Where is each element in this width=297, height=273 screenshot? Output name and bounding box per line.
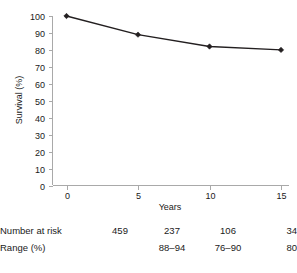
y-tick-label: 50 <box>35 97 45 107</box>
y-tick-group: 0102030405060708090100 <box>30 12 53 192</box>
data-point-marker <box>207 44 212 49</box>
x-tick-label: 15 <box>276 191 286 201</box>
data-point-marker <box>135 32 140 37</box>
risk-cell <box>96 239 144 256</box>
x-tick-group: 051015 <box>65 186 287 202</box>
risk-cell: 34 <box>256 222 297 239</box>
data-point-marker <box>64 13 69 18</box>
risk-row-label: Range (%) <box>0 239 96 256</box>
risk-cell: 76–90 <box>200 239 256 256</box>
y-tick-label: 20 <box>35 148 45 158</box>
table-row: Number at risk45923710634 <box>0 222 297 239</box>
risk-cell: 237 <box>144 222 200 239</box>
survival-figure: 0102030405060708090100 051015 Survival (… <box>0 0 297 273</box>
survival-series-line <box>67 16 282 50</box>
y-tick-label: 10 <box>35 165 45 175</box>
table-row: Range (%)88–9476–9080 <box>0 239 297 256</box>
y-tick-label: 60 <box>35 80 45 90</box>
x-tick-label: 5 <box>136 191 141 201</box>
y-tick-label: 100 <box>30 12 45 22</box>
y-tick-label: 70 <box>35 63 45 73</box>
survival-line-chart: 0102030405060708090100 051015 Survival (… <box>0 0 297 218</box>
data-point-marker <box>278 47 283 52</box>
number-at-risk-table: Number at risk45923710634Range (%)88–947… <box>0 222 297 256</box>
x-tick-label: 10 <box>205 191 215 201</box>
risk-cell: 106 <box>200 222 256 239</box>
y-axis: 0102030405060708090100 <box>30 12 53 192</box>
risk-cell: 80 <box>256 239 297 256</box>
survival-series-markers <box>64 13 284 52</box>
risk-cell: 88–94 <box>144 239 200 256</box>
risk-cell: 459 <box>96 222 144 239</box>
y-tick-label: 30 <box>35 131 45 141</box>
x-tick-label: 0 <box>65 191 70 201</box>
y-tick-label: 40 <box>35 114 45 124</box>
y-tick-label: 90 <box>35 29 45 39</box>
x-axis-title: Years <box>159 202 182 212</box>
y-tick-label: 0 <box>40 182 45 192</box>
y-axis-title: Survival (%) <box>14 76 24 125</box>
x-axis: 051015 <box>53 186 290 202</box>
y-tick-label: 80 <box>35 46 45 56</box>
chart-plot-area: 0102030405060708090100 051015 Survival (… <box>0 0 297 218</box>
risk-row-label: Number at risk <box>0 222 96 239</box>
